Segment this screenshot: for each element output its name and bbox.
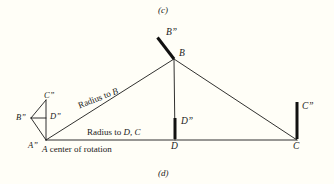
label-B-double-prime-main: B” — [166, 28, 177, 38]
label-D-double-prime-small: D” — [50, 112, 61, 121]
annotation-center-text: center of rotation — [48, 144, 112, 154]
label-vertex-C: C — [293, 142, 299, 152]
label-C-double-prime-main: C” — [302, 102, 314, 112]
mark-B-double-prime — [158, 38, 175, 60]
caption-c: (c) — [158, 5, 168, 15]
annotation-radius-to-dc-text: Radius to — [87, 127, 124, 137]
segment-B-C — [174, 59, 297, 140]
label-C-double-prime-small: C” — [44, 91, 54, 100]
label-D-double-prime-main: D” — [181, 117, 193, 127]
caption-d: (d) — [158, 168, 169, 178]
label-vertex-B: B — [179, 49, 185, 59]
label-vertex-D: D — [171, 142, 178, 152]
annotation-radius-to-dc-points: D, C — [124, 127, 141, 137]
label-B-double-prime-small: B” — [16, 113, 26, 122]
segment-Bd-Cd — [31, 100, 46, 118]
rotated-small-triangle-group — [31, 100, 46, 140]
segment-Ad-Bd — [31, 118, 46, 140]
label-A-double-prime-small: A” — [28, 141, 38, 150]
figure-root: (c) (d) B C D B” D” C” A” B” C” D” Radiu… — [0, 0, 334, 184]
annotation-center-of-rotation: A center of rotation — [42, 145, 112, 154]
annotation-radius-to-dc: Radius to D, C — [87, 128, 141, 137]
